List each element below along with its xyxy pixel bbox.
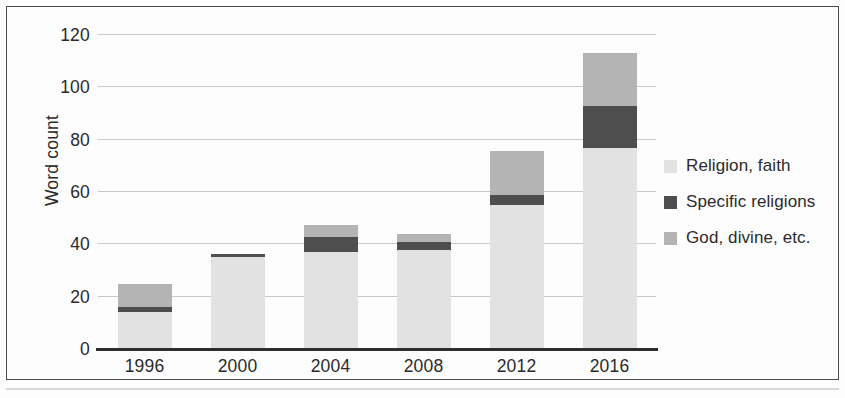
legend-swatch-icon (664, 232, 677, 245)
y-tick-label: 40 (32, 234, 90, 255)
legend-label: Specific religions (686, 192, 815, 212)
bar-segment (397, 250, 451, 349)
gridline (98, 139, 656, 140)
bar-segment (304, 252, 358, 349)
x-tick-label: 2016 (565, 356, 655, 377)
plot-area (98, 35, 656, 349)
legend-label: Religion, faith (686, 156, 791, 176)
bar-segment (583, 106, 637, 148)
bar-segment (583, 148, 637, 349)
legend-swatch-icon (664, 196, 677, 209)
x-tick-label: 2008 (379, 356, 469, 377)
gridline (98, 34, 656, 35)
bar-2008[interactable] (397, 234, 451, 349)
y-tick-label: 100 (32, 77, 90, 98)
bar-segment (397, 242, 451, 250)
x-tick-label: 1996 (100, 356, 190, 377)
y-tick-label: 120 (32, 25, 90, 46)
chart-figure: Word count 020406080100120 1996200020042… (0, 0, 845, 398)
legend-swatch-icon (664, 160, 677, 173)
bar-segment (118, 284, 172, 308)
bar-segment (397, 234, 451, 242)
bar-segment (490, 195, 544, 205)
gridline (98, 191, 656, 192)
scan-edge (6, 388, 839, 390)
x-tick-label: 2000 (193, 356, 283, 377)
bar-segment (304, 237, 358, 253)
y-tick-label: 60 (32, 182, 90, 203)
legend-item[interactable]: Religion, faith (664, 148, 836, 184)
bar-segment (118, 312, 172, 349)
y-tick-label: 80 (32, 129, 90, 150)
bar-segment (490, 205, 544, 349)
y-tick-label: 0 (32, 339, 90, 360)
legend-item[interactable]: God, divine, etc. (664, 220, 836, 256)
gridline (98, 243, 656, 244)
bar-segment (211, 257, 265, 349)
x-tick-label: 2012 (472, 356, 562, 377)
bar-segment (490, 151, 544, 194)
bar-1996[interactable] (118, 284, 172, 349)
chart-legend: Religion, faithSpecific religionsGod, di… (664, 148, 836, 256)
bar-segment (304, 225, 358, 237)
x-axis-line (96, 348, 658, 351)
bar-segment (583, 53, 637, 105)
bar-2016[interactable] (583, 53, 637, 349)
gridline (98, 86, 656, 87)
y-tick-label: 20 (32, 286, 90, 307)
x-tick-label: 2004 (286, 356, 376, 377)
gridline (98, 296, 656, 297)
legend-item[interactable]: Specific religions (664, 184, 836, 220)
legend-label: God, divine, etc. (686, 228, 811, 248)
bar-2012[interactable] (490, 151, 544, 349)
bar-2004[interactable] (304, 225, 358, 349)
y-axis-tick-labels: 020406080100120 (20, 35, 90, 349)
bar-2000[interactable] (211, 254, 265, 350)
